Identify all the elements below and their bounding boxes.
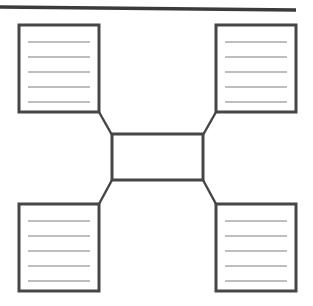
organizer-diagram: [0, 0, 313, 306]
note-box-bottom-right-outline[interactable]: [216, 204, 296, 291]
connector-center-to-top-right: [203, 112, 216, 135]
note-box-top-left-outline[interactable]: [19, 25, 99, 112]
connector-center-to-bottom-left: [99, 180, 112, 204]
note-box-top-left[interactable]: [19, 25, 99, 112]
center-topic-box[interactable]: [112, 134, 203, 180]
note-box-bottom-right[interactable]: [216, 204, 296, 291]
note-box-bottom-left[interactable]: [19, 204, 99, 291]
note-box-top-right-outline[interactable]: [216, 25, 296, 112]
note-box-top-right[interactable]: [216, 25, 296, 112]
connector-center-to-top-left: [99, 112, 112, 135]
note-box-bottom-left-outline[interactable]: [19, 204, 99, 291]
graphic-organizer-page: [0, 0, 313, 306]
connector-center-to-bottom-right: [203, 180, 216, 204]
center-topic-box-outline[interactable]: [112, 134, 203, 180]
top-divider-rule: [0, 7, 296, 10]
